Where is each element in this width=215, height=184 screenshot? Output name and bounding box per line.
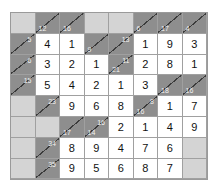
answer-cell[interactable]: 9 — [60, 96, 85, 117]
answer-cell[interactable]: 9 — [85, 138, 110, 159]
blank-cell — [11, 159, 36, 180]
across-clue: 34 — [48, 140, 56, 147]
clue-cell: 16 — [60, 13, 85, 34]
answer-cell[interactable]: 2 — [60, 55, 85, 76]
answer-cell[interactable]: 6 — [85, 96, 110, 117]
clue-cell: 35 — [36, 159, 61, 180]
down-clue: 17 — [63, 129, 71, 136]
answer-cell[interactable]: 1 — [109, 75, 134, 96]
answer-cell[interactable]: 9 — [60, 159, 85, 180]
answer-cell[interactable]: 6 — [158, 138, 183, 159]
down-clue: 14 — [88, 129, 96, 136]
clue-cell: 13 — [109, 34, 134, 55]
answer-cell[interactable]: 4 — [60, 75, 85, 96]
answer-cell[interactable]: 1 — [60, 34, 85, 55]
down-clue: 21 — [112, 66, 120, 73]
answer-cell[interactable]: 9 — [158, 34, 183, 55]
clue-cell: 16 — [183, 75, 208, 96]
clue-cell: 168 — [134, 96, 159, 117]
answer-cell[interactable]: 7 — [158, 159, 183, 180]
down-clue: 16 — [186, 87, 194, 94]
down-clue: 18 — [161, 87, 169, 94]
answer-cell[interactable]: 7 — [183, 96, 208, 117]
clue-cell: 5 — [11, 34, 36, 55]
blank-cell — [109, 13, 134, 34]
answer-cell[interactable]: 2 — [109, 117, 134, 138]
blank-cell — [183, 138, 208, 159]
blank-cell — [11, 117, 36, 138]
blank-cell — [11, 138, 36, 159]
across-clue: 5 — [28, 36, 32, 43]
answer-cell[interactable]: 2 — [85, 75, 110, 96]
answer-cell[interactable]: 3 — [134, 75, 159, 96]
across-clue: 35 — [48, 161, 56, 168]
answer-cell[interactable]: 3 — [36, 55, 61, 76]
across-clue: 16 — [97, 119, 105, 126]
kakuro-grid: 1216617454191319363212111281155421318162… — [10, 12, 208, 180]
answer-cell[interactable]: 5 — [36, 75, 61, 96]
clue-cell: 34 — [36, 138, 61, 159]
answer-cell[interactable]: 8 — [60, 138, 85, 159]
clue-cell: 15 — [11, 75, 36, 96]
blank-cell — [36, 117, 61, 138]
across-clue: 8 — [150, 98, 154, 105]
across-clue: 23 — [48, 98, 56, 105]
answer-cell[interactable]: 9 — [183, 117, 208, 138]
clue-cell: 17 — [158, 13, 183, 34]
down-clue: 6 — [137, 25, 141, 32]
across-clue: 15 — [24, 77, 32, 84]
clue-cell: 6 — [134, 13, 159, 34]
clue-cell: 17 — [60, 117, 85, 138]
answer-cell[interactable]: 1 — [134, 34, 159, 55]
answer-cell[interactable]: 4 — [36, 34, 61, 55]
clue-cell: 23 — [36, 96, 61, 117]
blank-cell — [11, 96, 36, 117]
down-clue: 16 — [137, 108, 145, 115]
answer-cell[interactable]: 2 — [134, 55, 159, 76]
blank-cell — [183, 159, 208, 180]
down-clue: 16 — [63, 25, 71, 32]
answer-cell[interactable]: 7 — [134, 138, 159, 159]
down-clue: 12 — [39, 25, 47, 32]
clue-cell: 1416 — [85, 117, 110, 138]
answer-cell[interactable]: 1 — [158, 96, 183, 117]
clue-cell: 9 — [85, 34, 110, 55]
across-clue: 11 — [122, 57, 129, 64]
across-clue: 6 — [28, 57, 32, 64]
answer-cell[interactable]: 8 — [158, 55, 183, 76]
clue-cell: 18 — [158, 75, 183, 96]
clue-cell: 4 — [183, 13, 208, 34]
across-clue: 13 — [122, 36, 130, 43]
down-clue: 4 — [186, 25, 190, 32]
answer-cell[interactable]: 1 — [183, 55, 208, 76]
answer-cell[interactable]: 8 — [109, 96, 134, 117]
answer-cell[interactable]: 1 — [134, 117, 159, 138]
clue-cell: 2111 — [109, 55, 134, 76]
down-clue: 9 — [88, 46, 92, 53]
blank-cell — [11, 13, 36, 34]
answer-cell[interactable]: 6 — [109, 159, 134, 180]
answer-cell[interactable]: 3 — [183, 34, 208, 55]
clue-cell: 12 — [36, 13, 61, 34]
answer-cell[interactable]: 4 — [158, 117, 183, 138]
answer-cell[interactable]: 1 — [85, 55, 110, 76]
down-clue: 17 — [161, 25, 169, 32]
blank-cell — [85, 13, 110, 34]
clue-cell: 6 — [11, 55, 36, 76]
answer-cell[interactable]: 5 — [85, 159, 110, 180]
answer-cell[interactable]: 4 — [109, 138, 134, 159]
answer-cell[interactable]: 8 — [134, 159, 159, 180]
